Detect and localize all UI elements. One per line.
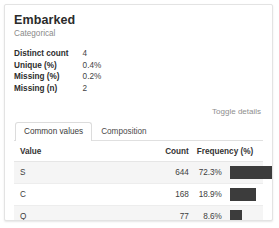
stats-row: Unique (%) 0.4% [14, 60, 101, 72]
toggle-details-link[interactable]: Toggle details [212, 107, 261, 116]
frequency-bar [230, 166, 273, 179]
bar-track [226, 184, 263, 205]
bar-track [226, 162, 263, 183]
stat-label-missing-pct: Missing (%) [14, 71, 83, 83]
cell-value: S [14, 162, 141, 184]
toggle-details-row: Toggle details [14, 100, 263, 118]
cell-count: 168 [141, 184, 189, 206]
table-row: Q 77 8.6% [14, 206, 263, 222]
frequency-table: Value Count Frequency (%) S 644 72.3% [14, 141, 263, 221]
cell-bar [226, 184, 263, 206]
stats-row: Distinct count 4 [14, 48, 101, 60]
tab-bar: Common values Composition [14, 122, 263, 141]
variable-type-label: Categorical [14, 28, 263, 39]
cell-value: C [14, 184, 141, 206]
stat-value-missing-n: 2 [83, 83, 102, 95]
frequency-bar [230, 188, 256, 201]
tab-common-values[interactable]: Common values [15, 122, 92, 141]
frequency-bar [230, 210, 242, 221]
column-header-frequency: Frequency (%) [189, 141, 263, 162]
page-title: Embarked [14, 13, 263, 27]
cell-frequency: 18.9% [189, 184, 226, 206]
table-row: S 644 72.3% [14, 162, 263, 184]
stats-table: Distinct count 4 Unique (%) 0.4% Missing… [14, 48, 101, 94]
variable-summary-card: Embarked Categorical Distinct count 4 Un… [4, 4, 273, 221]
stat-label-unique-pct: Unique (%) [14, 60, 83, 72]
cell-count: 77 [141, 206, 189, 222]
cell-bar [226, 206, 263, 222]
table-header-row: Value Count Frequency (%) [14, 141, 263, 162]
stats-row: Missing (n) 2 [14, 83, 101, 95]
stat-label-missing-n: Missing (n) [14, 83, 83, 95]
cell-frequency: 72.3% [189, 162, 226, 184]
cell-value: Q [14, 206, 141, 222]
cell-bar [226, 162, 263, 184]
bar-track [226, 206, 263, 221]
column-header-count: Count [141, 141, 189, 162]
stat-value-unique-pct: 0.4% [83, 60, 102, 72]
table-row: C 168 18.9% [14, 184, 263, 206]
tab-composition[interactable]: Composition [92, 122, 156, 141]
stat-value-distinct-count: 4 [83, 48, 102, 60]
column-header-value: Value [14, 141, 141, 162]
cell-count: 644 [141, 162, 189, 184]
card-header-section: Embarked Categorical Distinct count 4 Un… [5, 5, 272, 221]
stats-row: Missing (%) 0.2% [14, 71, 101, 83]
stat-value-missing-pct: 0.2% [83, 71, 102, 83]
stat-label-distinct-count: Distinct count [14, 48, 83, 60]
cell-frequency: 8.6% [189, 206, 226, 222]
